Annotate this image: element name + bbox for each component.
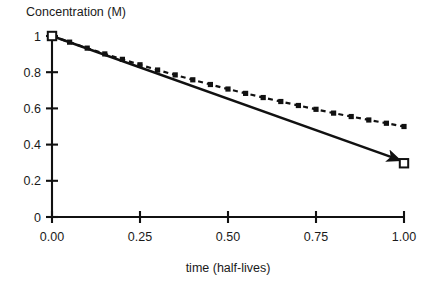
x-tick-label-0.50: 0.50 bbox=[216, 230, 240, 244]
x-tick-labels: 0.00 0.25 0.50 0.75 1.00 bbox=[40, 230, 416, 244]
y-tick-label-0: 0 bbox=[34, 211, 41, 225]
y-tick-label-0.6: 0.6 bbox=[24, 102, 41, 116]
x-tick-label-0.25: 0.25 bbox=[128, 230, 152, 244]
y-tick-label-0.4: 0.4 bbox=[24, 138, 41, 152]
y-tick-label-1: 1 bbox=[34, 30, 41, 44]
x-tick-label-1.00: 1.00 bbox=[392, 230, 416, 244]
y-tick-label-0.2: 0.2 bbox=[24, 174, 41, 188]
series-exponential-decay bbox=[52, 36, 404, 127]
y-axis-title: Concentration (M) bbox=[26, 5, 126, 19]
x-axis-title: time (half-lives) bbox=[186, 261, 271, 275]
x-tick-label-0.00: 0.00 bbox=[40, 230, 64, 244]
chart-container: Concentration (M) 0 0.2 0.4 0.6 0. bbox=[0, 0, 431, 291]
y-tick-label-0.8: 0.8 bbox=[24, 66, 41, 80]
x-tick-label-0.75: 0.75 bbox=[304, 230, 328, 244]
y-tick-labels: 0 0.2 0.4 0.6 0.8 1 bbox=[24, 30, 41, 225]
chart-svg: Concentration (M) 0 0.2 0.4 0.6 0. bbox=[0, 0, 431, 291]
